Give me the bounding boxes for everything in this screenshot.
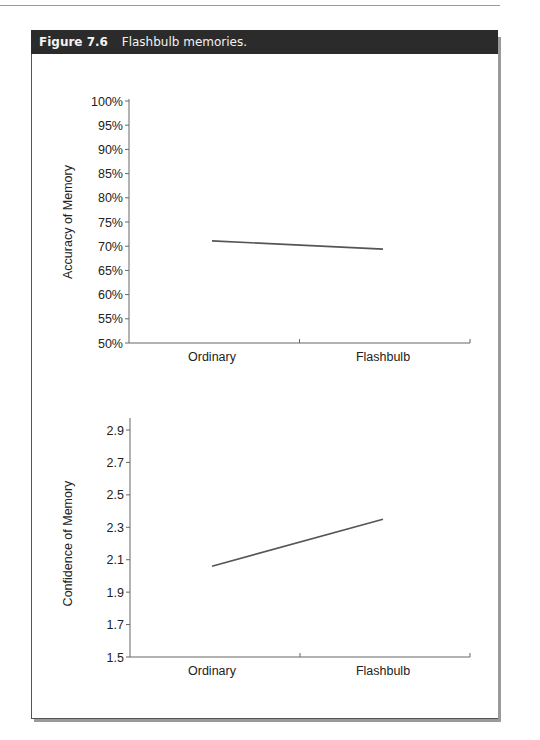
y-tick-label: 50% xyxy=(98,337,123,351)
charts-canvas: 50%55%60%65%70%75%80%85%90%95%100%Ordina… xyxy=(0,0,540,740)
y-tick-label: 65% xyxy=(98,264,123,278)
y-tick-label: 2.3 xyxy=(107,521,124,535)
y-tick-label: 1.5 xyxy=(107,651,124,665)
series-line xyxy=(212,241,383,249)
x-category-label: Flashbulb xyxy=(356,350,410,364)
x-category-label: Flashbulb xyxy=(356,664,410,678)
y-axis-title: Accuracy of Memory xyxy=(61,164,75,279)
y-tick-label: 55% xyxy=(98,312,123,326)
confidence-chart: 1.51.71.92.12.32.52.72.9OrdinaryFlashbul… xyxy=(61,418,470,678)
y-tick-label: 60% xyxy=(98,288,123,302)
y-tick-label: 2.7 xyxy=(107,456,124,470)
y-tick-label: 85% xyxy=(98,167,123,181)
x-category-label: Ordinary xyxy=(188,664,237,678)
accuracy-chart: 50%55%60%65%70%75%80%85%90%95%100%Ordina… xyxy=(61,95,470,365)
x-category-label: Ordinary xyxy=(188,350,237,364)
y-tick-label: 90% xyxy=(98,143,123,157)
y-tick-label: 2.5 xyxy=(107,488,124,502)
y-axis-title: Confidence of Memory xyxy=(61,480,75,607)
y-tick-label: 80% xyxy=(98,191,123,205)
series-line xyxy=(212,519,383,566)
y-tick-label: 1.9 xyxy=(107,586,124,600)
y-tick-label: 95% xyxy=(98,119,123,133)
y-tick-label: 75% xyxy=(98,216,123,230)
y-tick-label: 2.9 xyxy=(107,424,124,438)
y-tick-label: 2.1 xyxy=(107,553,124,567)
y-tick-label: 70% xyxy=(98,240,123,254)
y-tick-label: 100% xyxy=(91,95,123,109)
y-tick-label: 1.7 xyxy=(107,618,124,632)
